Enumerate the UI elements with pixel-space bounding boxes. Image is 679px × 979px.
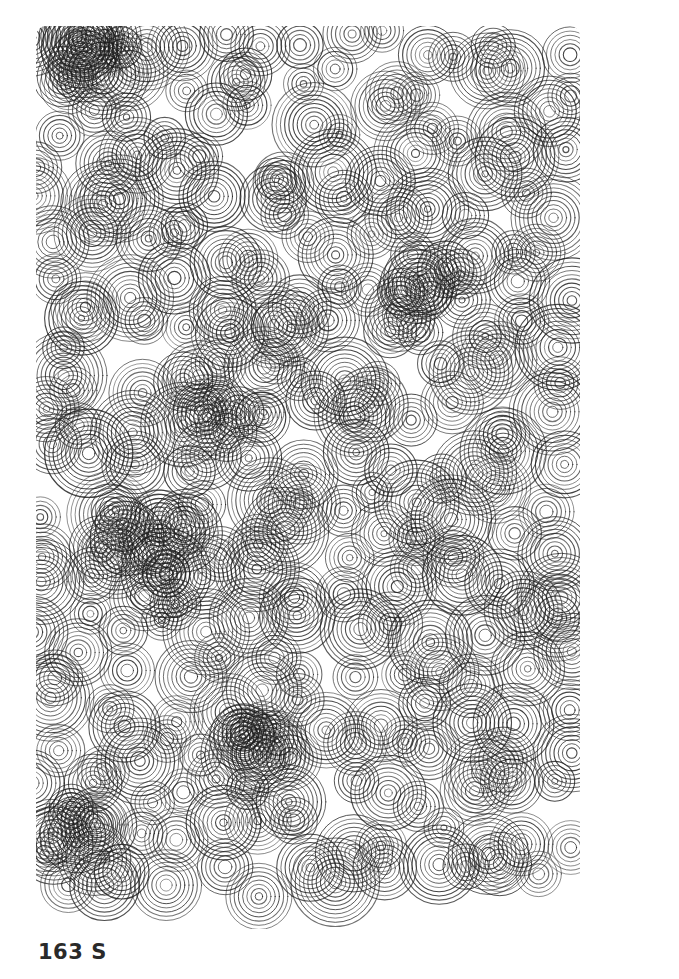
figure-caption: 163 S xyxy=(38,940,107,964)
concentric-circles-artwork xyxy=(0,0,679,979)
